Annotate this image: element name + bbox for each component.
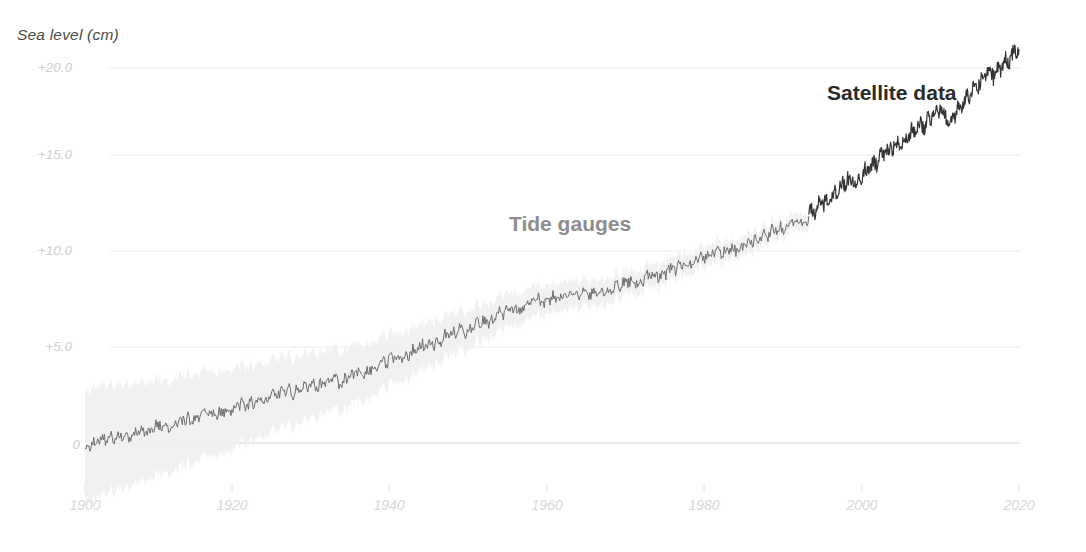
- x-tick-2000: 2000: [822, 497, 902, 513]
- x-tick-1980: 1980: [664, 497, 744, 513]
- annotation-tide-gauges: Tide gauges: [509, 212, 631, 236]
- y-tick-0: 0: [10, 437, 80, 452]
- satellite-line: [809, 45, 1019, 220]
- y-tick-15: +15.0: [10, 147, 72, 162]
- x-tick-1920: 1920: [192, 497, 272, 513]
- x-tick-2020: 2020: [979, 497, 1059, 513]
- x-tick-1960: 1960: [507, 497, 587, 513]
- annotation-satellite-data: Satellite data: [827, 81, 957, 105]
- y-tick-5: +5.0: [10, 339, 72, 354]
- y-tick-10: +10.0: [10, 243, 72, 258]
- x-tick-1940: 1940: [349, 497, 429, 513]
- x-axis-ticks: [85, 484, 1019, 492]
- y-tick-20: +20.0: [10, 60, 72, 75]
- sea-level-chart: Sea level (cm) +20.0 +15.0 +10.0 +5.0 0 …: [0, 0, 1086, 552]
- x-tick-1900: 1900: [45, 497, 125, 513]
